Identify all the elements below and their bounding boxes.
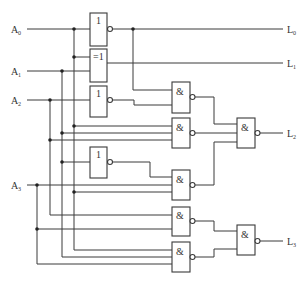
gate-xor-a0-a1: =1: [90, 49, 107, 82]
output-label-l3: L 3: [287, 236, 296, 248]
svg-text:&: &: [241, 122, 249, 133]
svg-text:0: 0: [18, 30, 21, 36]
gate-nand-4: &: [172, 207, 195, 236]
svg-text:2: 2: [293, 134, 296, 140]
svg-text:&: &: [176, 210, 184, 221]
output-label-l1: L 1: [287, 58, 296, 70]
svg-text:1: 1: [96, 15, 101, 26]
logic-circuit-diagram: A 0 A 1 A 2 A 3: [0, 0, 308, 281]
input-label-a0: A 0: [11, 24, 21, 36]
gate-nand-5: &: [172, 242, 195, 272]
gate-nand-3: &: [172, 170, 195, 200]
gate-not-a1: 1: [90, 147, 113, 178]
svg-text:1: 1: [96, 149, 101, 160]
svg-text:2: 2: [18, 101, 21, 107]
gate-nand-l3: &: [237, 225, 260, 255]
svg-text:1: 1: [18, 72, 21, 78]
output-label-l2: L 2: [287, 128, 296, 140]
svg-text:&: &: [176, 86, 184, 97]
svg-text:&: &: [241, 229, 249, 240]
input-label-a1: A 1: [11, 66, 21, 78]
svg-text:3: 3: [293, 242, 296, 248]
svg-text:1: 1: [293, 64, 296, 70]
input-label-a2: A 2: [11, 95, 21, 107]
svg-text:&: &: [176, 122, 184, 133]
input-label-a3: A 3: [11, 180, 21, 192]
gate-nand-2: &: [172, 118, 195, 148]
gate-not-a0: 1: [90, 13, 113, 46]
svg-text:1: 1: [96, 88, 101, 99]
svg-text:&: &: [176, 174, 184, 185]
svg-text:&: &: [176, 246, 184, 257]
output-label-l0: L 0: [287, 24, 296, 36]
svg-text:=1: =1: [93, 51, 104, 62]
gate-nand-l2: &: [237, 118, 260, 148]
svg-text:0: 0: [293, 30, 296, 36]
gate-nand-1: &: [172, 82, 195, 113]
svg-text:3: 3: [18, 186, 21, 192]
gate-not-a2: 1: [90, 86, 113, 117]
